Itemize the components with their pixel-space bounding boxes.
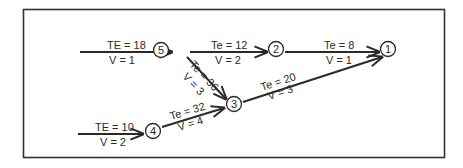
edge-3-1: Te = 20 V = 3: [243, 57, 382, 102]
edge-te-label: TE = 18: [107, 39, 146, 51]
edge-v-label: V = 2: [100, 136, 126, 148]
node-2-circle: 2: [269, 42, 284, 57]
node-4-circle: 4: [146, 124, 161, 139]
edge-v-label: V = 1: [326, 54, 352, 66]
edge-te-label: Te = 8: [324, 39, 354, 51]
svg-text:4: 4: [150, 125, 156, 137]
edge-te-label: Te = 12: [211, 39, 247, 51]
svg-text:2: 2: [273, 43, 279, 55]
edge-v-label: V = 1: [109, 54, 135, 66]
diagram-frame: [24, 10, 445, 158]
svg-text:5: 5: [158, 44, 164, 56]
svg-text:1: 1: [385, 43, 391, 55]
node-5-circle: 5: [154, 43, 169, 58]
edge-v-label: V = 2: [215, 54, 241, 66]
edge-te-label: TE = 10: [95, 121, 134, 133]
node-1-circle: 1: [381, 42, 396, 57]
edge-start-4: TE = 10 V = 2: [78, 121, 143, 148]
edge-5-2: Te = 12 V = 2: [190, 39, 267, 66]
node-3-circle: 3: [227, 97, 242, 112]
svg-text:3: 3: [231, 98, 237, 110]
edge-4-3: Te = 32 V = 4: [162, 100, 224, 133]
pert-diagram: TE = 18 V = 1 Te = 12 V = 2 Te = 8 V = 1…: [0, 0, 463, 168]
